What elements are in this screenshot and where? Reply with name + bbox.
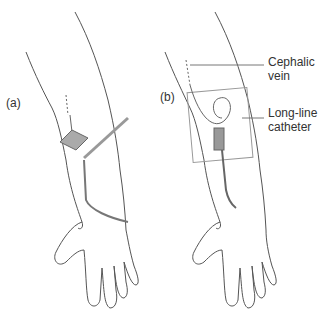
hand-b — [193, 222, 276, 308]
arm-b-outline — [165, 52, 221, 229]
cephalic-vein-label: Cephalic vein — [268, 55, 315, 83]
diagram: (a) (b) Cephalic vein Long-line catheter — [0, 0, 327, 322]
arm-illustrations — [0, 0, 327, 322]
long-line-catheter-label: Long-line catheter — [268, 106, 317, 134]
panel-a-label: (a) — [6, 96, 21, 110]
panel-b-label: (b) — [160, 90, 175, 104]
hand-a — [55, 222, 138, 308]
long-line-catheter — [186, 60, 264, 208]
cannula-device — [60, 95, 128, 222]
